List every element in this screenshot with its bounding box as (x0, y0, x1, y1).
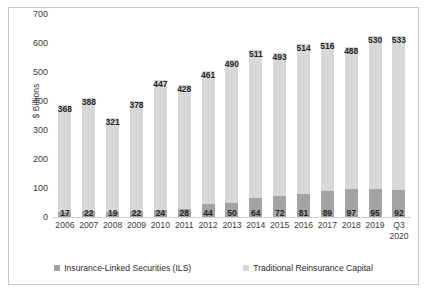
bar-segment-ils[interactable]: 64 (249, 198, 262, 217)
bar-segment-traditional[interactable]: 490 (225, 60, 238, 202)
bar-segment-traditional[interactable]: 378 (130, 101, 143, 211)
bar-segment-ils[interactable]: 92 (392, 190, 405, 217)
bar-value-label-traditional: 514 (296, 43, 310, 54)
bar-group[interactable]: 49050 (220, 14, 244, 217)
stacked-bar[interactable]: 32119 (106, 118, 119, 217)
bar-segment-traditional[interactable]: 514 (297, 44, 310, 193)
bar-value-label-traditional: 321 (106, 117, 120, 128)
x-axis-line (53, 217, 411, 218)
x-axis-tick: 2012 (196, 220, 220, 250)
bar-group[interactable]: 51689 (315, 14, 339, 217)
bar-value-label-traditional: 388 (82, 97, 96, 108)
bar-segment-ils[interactable]: 24 (154, 210, 167, 217)
x-axis-tick: 2011 (172, 220, 196, 250)
x-axis-tick: 2014 (244, 220, 268, 250)
bar-segment-traditional[interactable]: 388 (82, 98, 95, 211)
stacked-bar[interactable]: 38822 (82, 98, 95, 217)
x-axis-tick: 2006 (53, 220, 77, 250)
legend-swatch-icon (54, 265, 60, 271)
bar-group[interactable]: 48897 (339, 14, 363, 217)
stacked-bar[interactable]: 36817 (58, 105, 71, 217)
stacked-bar[interactable]: 46144 (202, 71, 215, 217)
bar-group[interactable]: 32119 (101, 14, 125, 217)
bar-group[interactable]: 44724 (148, 14, 172, 217)
bar-segment-traditional[interactable]: 511 (249, 50, 262, 198)
bar-segment-traditional[interactable]: 428 (178, 85, 191, 209)
stacked-bar[interactable]: 44724 (154, 80, 167, 217)
stacked-bar[interactable]: 51164 (249, 50, 262, 217)
stacked-bar[interactable]: 49372 (273, 53, 286, 217)
y-axis-tick: 500 (18, 67, 48, 77)
y-axis-tick: 100 (18, 183, 48, 193)
bar-value-label-traditional: 516 (320, 41, 334, 52)
bar-segment-ils[interactable]: 44 (202, 204, 215, 217)
stacked-bar[interactable]: 49050 (225, 60, 238, 217)
stacked-bar[interactable]: 51481 (297, 44, 310, 217)
bar-group[interactable]: 51481 (292, 14, 316, 217)
bar-value-label-traditional: 378 (129, 100, 143, 111)
bar-group[interactable]: 38822 (77, 14, 101, 217)
x-axis-tick: 2017 (315, 220, 339, 250)
bar-value-label-traditional: 447 (153, 79, 167, 90)
bar-value-label-traditional: 530 (368, 35, 382, 46)
chart-legend: Insurance-Linked Securities (ILS)Traditi… (8, 263, 419, 273)
bar-value-label-traditional: 533 (392, 35, 406, 46)
bar-group[interactable]: 51164 (244, 14, 268, 217)
bar-group[interactable]: 49372 (268, 14, 292, 217)
bar-group[interactable]: 53095 (363, 14, 387, 217)
bar-segment-ils[interactable]: 81 (297, 194, 310, 217)
legend-swatch-icon (243, 265, 249, 271)
bar-series-container: 3681738822321193782244724428284614449050… (53, 14, 411, 217)
x-axis-tick: 2016 (292, 220, 316, 250)
stacked-bar[interactable]: 42828 (178, 85, 191, 217)
bar-value-label-traditional: 368 (58, 104, 72, 115)
bar-segment-ils[interactable]: 89 (321, 191, 334, 217)
bar-segment-ils[interactable]: 50 (225, 203, 238, 218)
bar-segment-ils[interactable]: 28 (178, 209, 191, 217)
bar-group[interactable]: 37822 (125, 14, 149, 217)
stacked-bar[interactable]: 51689 (321, 42, 334, 217)
y-axis-tick: 300 (18, 125, 48, 135)
x-axis-tick: 2018 (339, 220, 363, 250)
y-axis-tick: 400 (18, 96, 48, 106)
bar-segment-ils[interactable]: 72 (273, 196, 286, 217)
x-axis-tick: 2010 (148, 220, 172, 250)
bar-segment-traditional[interactable]: 493 (273, 53, 286, 196)
y-axis-tick: 0 (18, 212, 48, 222)
legend-item[interactable]: Insurance-Linked Securities (ILS) (54, 263, 191, 273)
bar-segment-traditional[interactable]: 530 (369, 36, 382, 190)
legend-item[interactable]: Traditional Reinsurance Capital (243, 263, 373, 273)
bar-segment-traditional[interactable]: 533 (392, 36, 405, 191)
bar-group[interactable]: 46144 (196, 14, 220, 217)
x-axis-tick: 2013 (220, 220, 244, 250)
bar-segment-traditional[interactable]: 488 (345, 47, 358, 189)
bar-group[interactable]: 42828 (172, 14, 196, 217)
bar-value-label-traditional: 488 (344, 46, 358, 57)
x-axis-tick: 2009 (125, 220, 149, 250)
stacked-bar[interactable]: 53392 (392, 36, 405, 217)
bar-segment-traditional[interactable]: 368 (58, 105, 71, 212)
bar-segment-traditional[interactable]: 516 (321, 42, 334, 192)
bar-segment-ils[interactable]: 95 (369, 189, 382, 217)
stacked-bar[interactable]: 48897 (345, 47, 358, 217)
x-axis-tick: 2008 (101, 220, 125, 250)
x-axis-tick: Q3 2020 (387, 220, 411, 250)
y-axis-tick-labels: 7006005004003002001000 (14, 14, 48, 217)
x-axis-tick: 2007 (77, 220, 101, 250)
bar-segment-traditional[interactable]: 447 (154, 80, 167, 210)
stacked-bar[interactable]: 37822 (130, 101, 143, 217)
bar-group[interactable]: 36817 (53, 14, 77, 217)
bar-segment-traditional[interactable]: 461 (202, 71, 215, 205)
y-axis-tick: 700 (18, 9, 48, 19)
bar-value-label-traditional: 511 (249, 49, 263, 60)
stacked-bar[interactable]: 53095 (369, 36, 382, 217)
bar-group[interactable]: 53392 (387, 14, 411, 217)
bar-segment-traditional[interactable]: 321 (106, 118, 119, 211)
bar-segment-ils[interactable]: 97 (345, 189, 358, 217)
y-axis-tick: 600 (18, 38, 48, 48)
bar-value-label-traditional: 493 (273, 52, 287, 63)
y-axis-tick: 200 (18, 154, 48, 164)
bar-value-label-traditional: 490 (225, 59, 239, 70)
bar-value-label-traditional: 461 (201, 70, 215, 81)
plot-area: 3681738822321193782244724428284614449050… (53, 14, 411, 217)
